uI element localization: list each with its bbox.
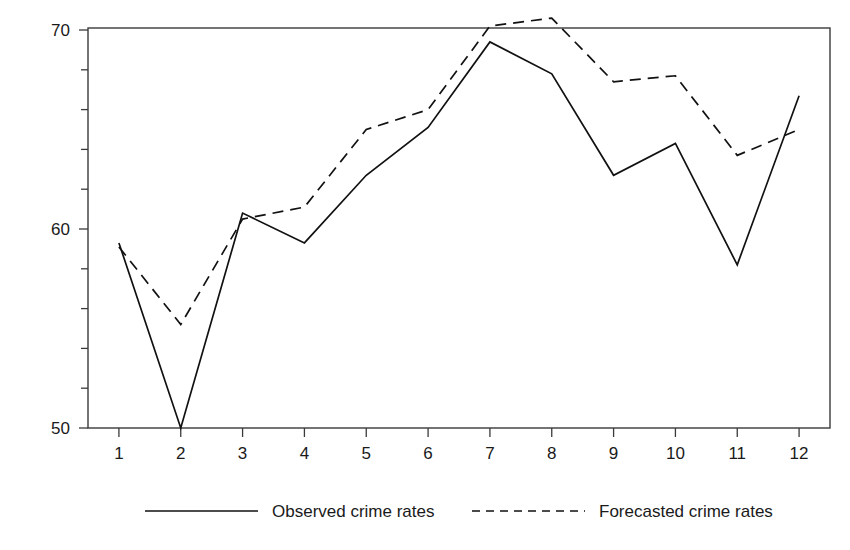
x-tick-label: 8	[547, 444, 556, 463]
x-tick-label: 6	[423, 444, 432, 463]
series-line-forecasted-crime-rates	[119, 18, 799, 324]
y-tick-label: 50	[51, 419, 70, 438]
y-axis-tick-labels: 506070	[51, 21, 70, 438]
x-tick-label: 2	[176, 444, 185, 463]
series-line-observed-crime-rates	[119, 42, 799, 428]
x-tick-label: 12	[790, 444, 809, 463]
legend-label-observed: Observed crime rates	[272, 502, 435, 521]
y-tick-label: 70	[51, 21, 70, 40]
x-tick-label: 1	[114, 444, 123, 463]
x-tick-label: 7	[485, 444, 494, 463]
x-tick-label: 11	[728, 444, 746, 463]
line-chart: 506070 123456789101112 Observed crime ra…	[0, 0, 850, 550]
x-tick-label: 10	[666, 444, 685, 463]
chart-legend: Observed crime rates Forecasted crime ra…	[145, 502, 773, 521]
legend-label-forecasted: Forecasted crime rates	[599, 502, 773, 521]
x-tick-label: 3	[238, 444, 247, 463]
x-axis-ticks	[119, 428, 799, 437]
x-tick-label: 4	[300, 444, 309, 463]
x-tick-label: 5	[362, 444, 371, 463]
y-tick-label: 60	[51, 220, 70, 239]
x-tick-label: 9	[609, 444, 618, 463]
x-axis-tick-labels: 123456789101112	[114, 444, 808, 463]
y-axis-ticks	[79, 30, 88, 428]
chart-container: 506070 123456789101112 Observed crime ra…	[0, 0, 850, 550]
